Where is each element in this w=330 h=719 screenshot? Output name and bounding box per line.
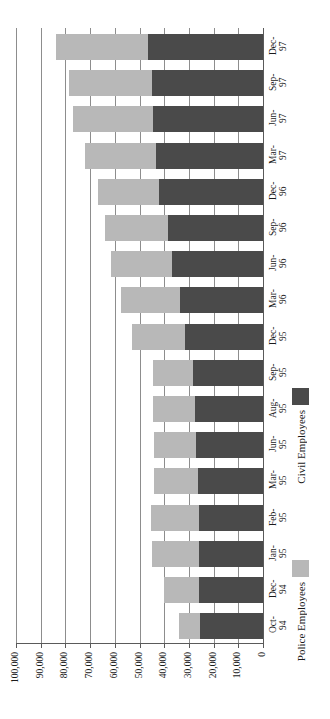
bar-segment-civil[interactable] — [200, 613, 263, 639]
bar-segment-police[interactable] — [73, 106, 153, 132]
bar-row[interactable] — [69, 70, 263, 96]
axis-tick-40000 — [164, 643, 165, 648]
axis-tick-30000 — [189, 643, 190, 648]
category-label: Mar- 95 — [268, 467, 294, 493]
bar-segment-civil[interactable] — [172, 251, 263, 277]
axis-tick-20000 — [214, 643, 215, 648]
value-label-40000: 40,000 — [158, 652, 170, 678]
bar-row[interactable] — [111, 251, 263, 277]
bar-row[interactable] — [85, 143, 263, 169]
bar-segment-civil[interactable] — [153, 106, 263, 132]
value-label-90000: 90,000 — [35, 652, 47, 678]
bar-segment-civil[interactable] — [196, 432, 263, 458]
bar-segment-civil[interactable] — [199, 505, 263, 531]
bar-segment-civil[interactable] — [198, 468, 263, 494]
gridline-0 — [263, 28, 264, 643]
bar-row[interactable] — [56, 34, 263, 60]
category-label: Dec- 95 — [268, 323, 294, 349]
bar-row[interactable] — [153, 360, 263, 386]
bar-segment-police[interactable] — [69, 70, 152, 96]
bar-segment-civil[interactable] — [193, 360, 263, 386]
axis-tick-70000 — [90, 643, 91, 648]
bar-segment-civil[interactable] — [195, 396, 263, 422]
bar-segment-police[interactable] — [153, 396, 195, 422]
bar-segment-civil[interactable] — [199, 577, 263, 603]
category-label: Feb- 95 — [268, 504, 294, 530]
gridline-100000 — [16, 28, 17, 643]
bar-row[interactable] — [154, 468, 263, 494]
legend-label-police: Police Employees — [295, 582, 307, 661]
bar-segment-police[interactable] — [111, 251, 172, 277]
legend-swatch-police-icon — [292, 560, 309, 577]
bar-row[interactable] — [154, 432, 263, 458]
axis-tick-90000 — [41, 643, 42, 648]
legend-swatch-civil-icon — [292, 388, 309, 405]
bar-segment-civil[interactable] — [159, 179, 263, 205]
category-label: Oct- 94 — [268, 612, 294, 638]
category-label: Sep- 96 — [268, 214, 294, 240]
axis-tick-80000 — [65, 643, 66, 648]
value-label-30000: 30,000 — [183, 652, 195, 678]
value-label-70000: 70,000 — [84, 652, 96, 678]
category-label: Mar- 96 — [268, 286, 294, 312]
bar-segment-police[interactable] — [154, 432, 196, 458]
bar-row[interactable] — [98, 179, 263, 205]
category-label: Sep- 97 — [268, 69, 294, 95]
bar-row[interactable] — [132, 324, 263, 350]
bar-row[interactable] — [73, 106, 263, 132]
gridline-80000 — [65, 28, 66, 643]
category-label: Jan- 95 — [268, 540, 294, 566]
value-label-50000: 50,000 — [134, 652, 146, 678]
bar-row[interactable] — [164, 577, 263, 603]
bar-segment-police[interactable] — [85, 143, 155, 169]
bar-segment-civil[interactable] — [148, 34, 263, 60]
bar-segment-civil[interactable] — [199, 541, 263, 567]
stacked-bar-chart: 100,00090,00080,00070,00060,00050,00040,… — [0, 0, 330, 719]
bar-segment-civil[interactable] — [156, 143, 263, 169]
bar-segment-civil[interactable] — [180, 287, 263, 313]
category-label: Jun- 96 — [268, 250, 294, 276]
gridline-90000 — [41, 28, 42, 643]
bar-row[interactable] — [152, 541, 263, 567]
bar-row[interactable] — [179, 613, 263, 639]
bar-segment-police[interactable] — [179, 613, 200, 639]
bar-segment-police[interactable] — [164, 577, 199, 603]
bar-row[interactable] — [105, 215, 263, 241]
category-label: Mar- 97 — [268, 142, 294, 168]
legend-entry-civil[interactable]: Civil Employees — [292, 388, 309, 484]
bar-segment-police[interactable] — [98, 179, 160, 205]
axis-tick-0 — [263, 643, 264, 648]
axis-tick-50000 — [140, 643, 141, 648]
axis-tick-100000 — [16, 643, 17, 648]
bar-segment-police[interactable] — [151, 505, 199, 531]
category-label: Jun- 95 — [268, 431, 294, 457]
bar-row[interactable] — [153, 396, 263, 422]
bar-row[interactable] — [151, 505, 263, 531]
bar-segment-civil[interactable] — [152, 70, 263, 96]
bar-segment-police[interactable] — [132, 324, 185, 350]
bar-segment-police[interactable] — [154, 468, 197, 494]
value-label-80000: 80,000 — [59, 652, 71, 678]
category-label: Aug- 95 — [268, 395, 294, 421]
category-label: Dec- 96 — [268, 178, 294, 204]
bar-segment-police[interactable] — [152, 541, 199, 567]
axis-tick-60000 — [115, 643, 116, 648]
category-label: Dec- 94 — [268, 576, 294, 602]
bar-segment-police[interactable] — [56, 34, 149, 60]
value-label-10000: 10,000 — [232, 652, 244, 678]
category-label: Sep- 95 — [268, 359, 294, 385]
bar-segment-civil[interactable] — [185, 324, 263, 350]
bar-segment-police[interactable] — [153, 360, 193, 386]
legend-label-civil: Civil Employees — [295, 410, 307, 484]
value-label-60000: 60,000 — [109, 652, 121, 678]
bar-row[interactable] — [121, 287, 263, 313]
legend-entry-police[interactable]: Police Employees — [292, 560, 309, 661]
axis-tick-10000 — [238, 643, 239, 648]
value-label-0: 0 — [257, 652, 269, 657]
bar-segment-police[interactable] — [105, 215, 168, 241]
bar-segment-civil[interactable] — [168, 215, 263, 241]
plot-area — [16, 28, 263, 643]
bar-segment-police[interactable] — [121, 287, 180, 313]
value-label-20000: 20,000 — [208, 652, 220, 678]
value-label-100000: 100,000 — [10, 652, 22, 683]
